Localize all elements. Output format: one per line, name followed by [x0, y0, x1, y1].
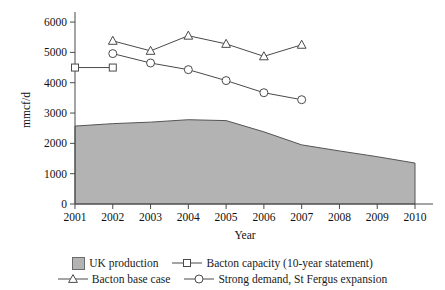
- x-tick-label: 2001: [64, 211, 87, 223]
- y-tick-label: 5000: [44, 46, 67, 58]
- legend-item-label: Bacton capacity (10-year statement): [206, 257, 372, 270]
- legend-marker-circle-icon: [184, 273, 214, 285]
- y-tick-label: 4000: [44, 77, 67, 89]
- legend-item[interactable]: UK production: [72, 257, 158, 270]
- marker-bacton-base-case: [108, 36, 117, 44]
- legend-item[interactable]: Strong demand, St Fergus expansion: [184, 273, 387, 286]
- series-bacton-base-case-line: [113, 36, 302, 57]
- legend-row: Bacton base caseStrong demand, St Fergus…: [58, 273, 387, 286]
- x-tick-label: 2005: [215, 211, 238, 223]
- legend-item-label: UK production: [89, 257, 158, 270]
- marker-strong-demand: [109, 50, 117, 58]
- legend-item-label: Strong demand, St Fergus expansion: [218, 273, 387, 286]
- marker-strong-demand: [260, 89, 268, 97]
- x-tick-label: 2002: [101, 211, 124, 223]
- marker-strong-demand: [222, 77, 230, 85]
- x-tick-label: 2006: [252, 211, 275, 223]
- series-uk-production-area: [75, 120, 415, 204]
- chart-plot-area: 0100020003000400050006000200120022003200…: [0, 0, 445, 245]
- marker-strong-demand: [184, 66, 192, 74]
- x-tick-label: 2003: [139, 211, 162, 223]
- legend-swatch-area-icon: [72, 257, 85, 270]
- legend-item-label: Bacton base case: [92, 273, 171, 286]
- legend-marker-triangle-icon: [58, 273, 88, 285]
- legend-item[interactable]: Bacton base case: [58, 273, 171, 286]
- marker-bacton-capacity: [109, 64, 116, 71]
- y-tick-label: 0: [61, 198, 67, 210]
- y-tick-label: 2000: [44, 137, 67, 149]
- y-tick-label: 6000: [44, 16, 67, 28]
- marker-bacton-base-case: [297, 40, 306, 48]
- chart-container: 0100020003000400050006000200120022003200…: [0, 0, 445, 290]
- x-tick-label: 2004: [177, 211, 200, 223]
- x-tick-label: 2007: [290, 211, 313, 223]
- x-tick-label: 2009: [366, 211, 389, 223]
- legend-row: UK productionBacton capacity (10-year st…: [72, 257, 373, 270]
- marker-strong-demand: [298, 96, 306, 104]
- x-tick-label: 2008: [328, 211, 351, 223]
- marker-bacton-capacity: [72, 64, 79, 71]
- marker-bacton-base-case: [184, 31, 193, 39]
- legend-marker-square-icon: [172, 257, 202, 269]
- y-tick-label: 1000: [44, 168, 67, 180]
- marker-strong-demand: [147, 59, 155, 67]
- series-strong-demand-line: [113, 54, 302, 100]
- y-tick-label: 3000: [44, 107, 67, 119]
- x-tick-label: 2010: [404, 211, 427, 223]
- legend-item[interactable]: Bacton capacity (10-year statement): [172, 257, 372, 270]
- y-axis-title: mmcf/d: [20, 92, 32, 128]
- chart-legend: UK productionBacton capacity (10-year st…: [0, 257, 445, 286]
- x-axis-title: Year: [234, 229, 255, 241]
